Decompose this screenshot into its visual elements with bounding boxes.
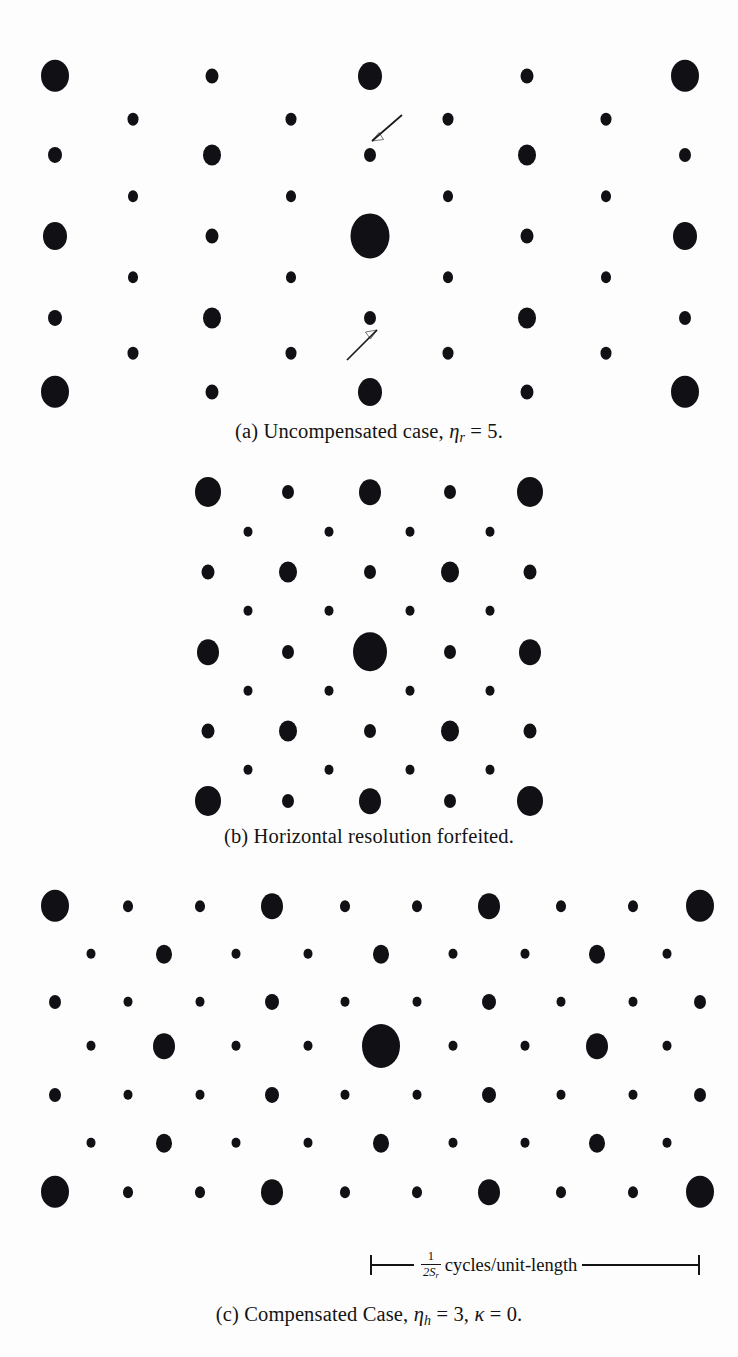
lattice-dot: [358, 378, 382, 406]
lattice-dot: [686, 890, 714, 922]
lattice-dot: [195, 1186, 205, 1198]
lattice-dot: [279, 721, 297, 742]
scale-bar-right-line: [582, 1264, 698, 1266]
lattice-dot: [41, 1176, 69, 1208]
lattice-dot: [261, 1179, 283, 1205]
lattice-dot: [362, 1024, 400, 1068]
lattice-dot: [413, 997, 422, 1007]
lattice-dot: [202, 723, 215, 738]
lattice-dot: [282, 794, 294, 808]
lattice-dot: [694, 1088, 706, 1102]
lattice-dot: [478, 893, 500, 919]
lattice-dot: [123, 1186, 133, 1198]
lattice-dot: [524, 723, 537, 738]
lattice-dot: [304, 949, 313, 959]
lattice-dot: [517, 786, 543, 816]
lattice-dot: [261, 893, 283, 919]
lattice-dot: [41, 376, 69, 408]
lattice-dot: [373, 945, 389, 964]
lattice-dot: [521, 1041, 530, 1051]
lattice-dot: [519, 639, 541, 665]
lattice-dot: [206, 384, 219, 399]
lattice-dot: [373, 1134, 389, 1153]
lattice-dot: [325, 686, 334, 696]
scale-bar-left-line: [372, 1264, 414, 1266]
lattice-dot: [482, 994, 496, 1010]
lattice-dot: [87, 949, 96, 959]
lattice-dot: [282, 485, 294, 499]
caption-panel-c: (c) Compensated Case, ηh = 3, κ = 0.: [0, 1303, 738, 1329]
lattice-dot: [153, 1033, 175, 1059]
lattice-dot: [87, 1041, 96, 1051]
lattice-dot: [341, 997, 350, 1007]
lattice-dot: [406, 527, 415, 537]
lattice-dot: [156, 945, 172, 964]
caption-a-value: = 5.: [470, 420, 503, 442]
lattice-dot: [521, 384, 534, 399]
lattice-dot: [244, 686, 253, 696]
lattice-dot: [340, 900, 350, 912]
panel-b-horizontal-forfeited: (b) Horizontal resolution forfeited.: [0, 460, 738, 860]
lattice-dot: [449, 1041, 458, 1051]
caption-a-text: Uncompensated case,: [263, 420, 443, 442]
caption-a-subscript: r: [460, 430, 466, 445]
lattice-c: [0, 0, 738, 360]
lattice-dot: [197, 639, 219, 665]
lattice-dot: [202, 564, 215, 579]
lattice-dot: [49, 1088, 61, 1102]
lattice-dot: [304, 1138, 313, 1148]
lattice-dot: [359, 479, 381, 505]
lattice-dot: [244, 606, 253, 616]
caption-a-prefix: (a): [235, 420, 258, 442]
caption-panel-b: (b) Horizontal resolution forfeited.: [0, 825, 738, 848]
lattice-dot: [482, 1087, 496, 1103]
lattice-dot: [282, 645, 294, 659]
lattice-dot: [478, 1179, 500, 1205]
lattice-dot: [663, 949, 672, 959]
scale-bar-denominator: 2Sr: [421, 1266, 441, 1281]
lattice-dot: [196, 997, 205, 1007]
frequency-scale-bar: 1 2Sr cycles/unit-length: [370, 1250, 700, 1280]
lattice-dot: [524, 564, 537, 579]
lattice-dot: [359, 788, 381, 814]
lattice-dot: [304, 1041, 313, 1051]
scale-bar-right-cap: [698, 1255, 700, 1275]
lattice-dot: [124, 997, 133, 1007]
lattice-dot: [325, 527, 334, 537]
lattice-dot: [244, 527, 253, 537]
lattice-dot: [265, 1087, 279, 1103]
lattice-dot: [671, 376, 699, 408]
lattice-dot: [406, 686, 415, 696]
caption-panel-a: (a) Uncompensated case, ηr = 5.: [0, 420, 738, 446]
lattice-dot: [486, 527, 495, 537]
lattice-dot: [444, 485, 456, 499]
lattice-dot: [41, 890, 69, 922]
lattice-dot: [196, 1090, 205, 1100]
lattice-dot: [589, 945, 605, 964]
panel-c-compensated: 1 2Sr cycles/unit-length (c) Compensated…: [0, 865, 738, 1357]
lattice-dot: [557, 997, 566, 1007]
lattice-dot: [441, 562, 459, 583]
caption-c-symbol-eta: η: [414, 1303, 424, 1325]
lattice-dot: [444, 794, 456, 808]
lattice-dot: [232, 1138, 241, 1148]
caption-c-text: Compensated Case,: [244, 1303, 408, 1325]
lattice-dot: [521, 1138, 530, 1148]
scale-bar-unit-text: cycles/unit-length: [445, 1255, 578, 1276]
caption-c-value-kappa: = 0.: [490, 1303, 523, 1325]
lattice-dot: [406, 606, 415, 616]
lattice-dot: [629, 1090, 638, 1100]
lattice-dot: [412, 900, 422, 912]
lattice-dot: [444, 645, 456, 659]
lattice-dot: [412, 1186, 422, 1198]
caption-c-prefix: (c): [216, 1303, 239, 1325]
lattice-dot: [341, 1090, 350, 1100]
lattice-dot: [325, 765, 334, 775]
lattice-dot: [586, 1033, 608, 1059]
lattice-dot: [340, 1186, 350, 1198]
scale-bar-label: 1 2Sr cycles/unit-length: [414, 1250, 582, 1280]
lattice-dot: [232, 1041, 241, 1051]
lattice-dot: [124, 1090, 133, 1100]
lattice-dot: [441, 721, 459, 742]
lattice-dot: [195, 900, 205, 912]
